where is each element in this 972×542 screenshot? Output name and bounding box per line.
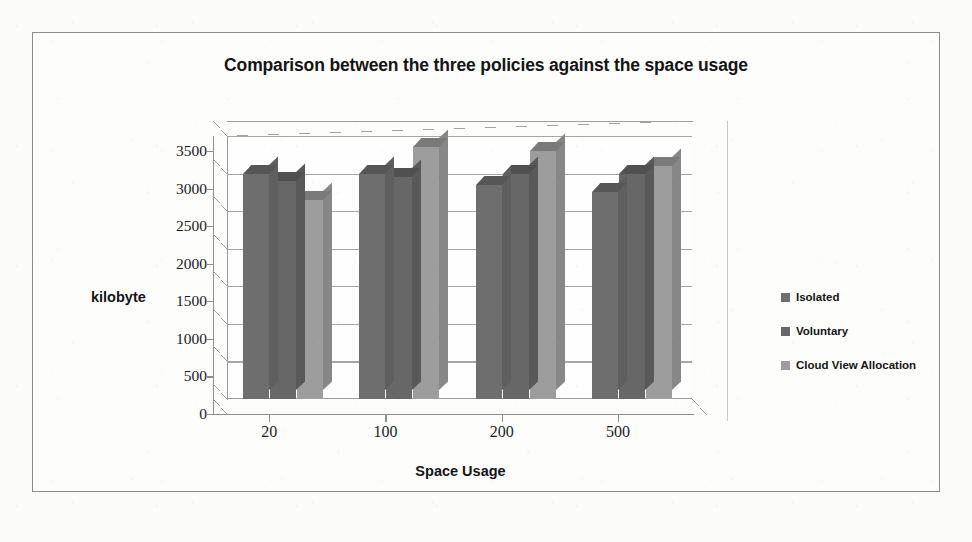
gridline-depth-diagonal bbox=[213, 196, 228, 212]
bar-side bbox=[529, 156, 538, 390]
bar-group bbox=[476, 136, 556, 399]
legend-label: Voluntary bbox=[796, 325, 848, 337]
x-axis-category-label: 500 bbox=[606, 423, 630, 441]
bar-side bbox=[645, 156, 654, 390]
plot-floor-left-diagonal bbox=[213, 399, 228, 415]
legend-swatch-icon bbox=[781, 361, 790, 370]
chart-legend: IsolatedVoluntaryCloud View Allocation bbox=[781, 291, 916, 393]
y-axis-tick-label: 1500 bbox=[176, 292, 207, 310]
legend-item[interactable]: Voluntary bbox=[781, 325, 916, 337]
gridline-depth-diagonal bbox=[213, 384, 228, 400]
y-axis-tick bbox=[207, 189, 214, 190]
gridline-depth-diagonal bbox=[213, 309, 228, 325]
bar bbox=[476, 185, 502, 399]
y-axis-tick-label: 0 bbox=[199, 405, 207, 423]
bars-layer bbox=[227, 136, 692, 399]
y-axis-tick-label: 2000 bbox=[176, 255, 207, 273]
plot-area: 0500100015002000250030003500 20100200500 bbox=[193, 121, 728, 421]
y-axis-tick-label: 3000 bbox=[176, 180, 207, 198]
legend-swatch-icon bbox=[781, 327, 790, 336]
bar-group bbox=[592, 136, 672, 399]
y-axis-tick bbox=[207, 264, 214, 265]
bar-side bbox=[323, 182, 332, 390]
bar-side bbox=[618, 175, 627, 390]
bar-side bbox=[269, 156, 278, 390]
bar-group bbox=[243, 136, 323, 399]
y-axis-tick bbox=[207, 339, 214, 340]
x-axis-category-label: 200 bbox=[490, 423, 514, 441]
bar bbox=[592, 192, 618, 399]
bar bbox=[243, 174, 269, 399]
y-axis-tick-label: 2500 bbox=[176, 217, 207, 235]
bar-side bbox=[385, 156, 394, 390]
bar-side bbox=[672, 149, 681, 390]
legend-swatch-icon bbox=[781, 293, 790, 302]
gridline-depth-diagonal bbox=[213, 159, 228, 175]
y-axis-tick-label: 3500 bbox=[176, 142, 207, 160]
x-axis-line bbox=[213, 414, 694, 415]
gridline-depth-diagonal bbox=[213, 271, 228, 287]
legend-item[interactable]: Cloud View Allocation bbox=[781, 359, 916, 371]
y-axis-tick bbox=[207, 151, 214, 152]
y-axis-title: kilobyte bbox=[91, 289, 146, 305]
y-axis-tick-label: 500 bbox=[184, 367, 207, 385]
gridline-depth-diagonal bbox=[213, 121, 228, 137]
bar-side bbox=[556, 134, 565, 390]
legend-item[interactable]: Isolated bbox=[781, 291, 916, 303]
bar bbox=[359, 174, 385, 399]
gridline-depth-diagonal bbox=[213, 234, 228, 250]
bar-side bbox=[502, 167, 511, 390]
bar-group bbox=[359, 136, 439, 399]
bar-side bbox=[412, 160, 421, 390]
chart-title: Comparison between the three policies ag… bbox=[33, 55, 939, 76]
legend-label: Isolated bbox=[796, 291, 839, 303]
x-axis-tick bbox=[269, 415, 270, 422]
gridline-depth-diagonal bbox=[213, 346, 228, 362]
x-axis-tick bbox=[385, 415, 386, 422]
x-axis-tick bbox=[502, 415, 503, 422]
bar-side bbox=[296, 164, 305, 390]
bar-face bbox=[476, 185, 502, 399]
y-axis-tick bbox=[207, 226, 214, 227]
y-axis-tick-label: 1000 bbox=[176, 330, 207, 348]
bar-face bbox=[243, 174, 269, 399]
x-axis-tick bbox=[618, 415, 619, 422]
y-axis-tick bbox=[207, 414, 214, 415]
bar-face bbox=[359, 174, 385, 399]
legend-label: Cloud View Allocation bbox=[796, 359, 916, 371]
plot-floor-right-diagonal bbox=[692, 399, 707, 415]
plot-top-depth bbox=[227, 121, 692, 136]
bar-face bbox=[592, 192, 618, 399]
bar-side bbox=[439, 130, 448, 390]
x-axis-title: Space Usage bbox=[193, 463, 728, 479]
y-axis-tick bbox=[207, 376, 214, 377]
chart-frame: Comparison between the three policies ag… bbox=[32, 32, 940, 492]
y-axis-tick bbox=[207, 301, 214, 302]
legend-divider bbox=[727, 121, 728, 421]
x-axis-category-label: 20 bbox=[261, 423, 277, 441]
x-axis-category-label: 100 bbox=[373, 423, 397, 441]
